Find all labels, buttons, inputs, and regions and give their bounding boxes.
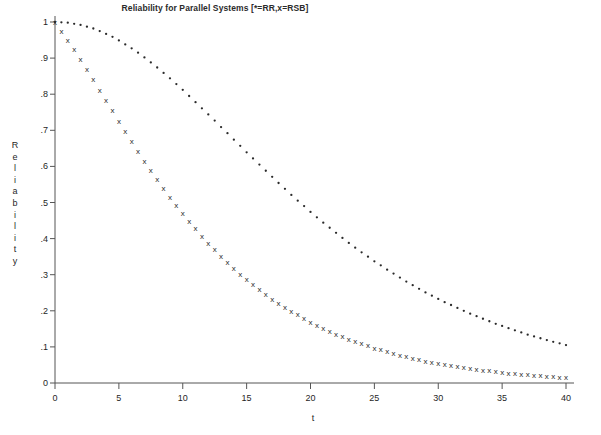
plot-canvas: xxxxxxxxxxxxxxxxxxxxxxxxxxxxxxxxxxxxxxxx… xyxy=(0,0,601,435)
data-point-marker: x xyxy=(494,367,498,376)
data-point-marker xyxy=(252,157,254,159)
data-point-marker xyxy=(354,246,356,248)
data-point-marker xyxy=(507,327,509,329)
y-axis-tick-label: .3 xyxy=(20,270,48,280)
data-point-marker xyxy=(297,200,299,202)
data-point-marker xyxy=(309,211,311,213)
chart-figure: Reliability for Parallel Systems [*=RR,x… xyxy=(0,0,601,435)
data-point-marker xyxy=(373,260,375,262)
data-point-marker xyxy=(316,216,318,218)
data-point-marker xyxy=(431,294,433,296)
data-point-marker: x xyxy=(200,232,204,241)
data-point-marker: x xyxy=(507,369,511,378)
data-point-marker xyxy=(290,194,292,196)
y-axis-tick-label: 0 xyxy=(20,378,48,388)
data-point-marker: x xyxy=(353,337,357,346)
data-point-marker: x xyxy=(430,358,434,367)
data-point-marker xyxy=(424,291,426,293)
data-point-marker: x xyxy=(321,324,325,333)
data-point-marker: x xyxy=(417,355,421,364)
data-point-marker: x xyxy=(110,106,114,115)
y-axis-tick-label: .7 xyxy=(20,125,48,135)
data-point-marker xyxy=(399,276,401,278)
data-point-marker: x xyxy=(340,332,344,341)
data-point-marker xyxy=(514,329,516,331)
data-point-marker xyxy=(284,188,286,190)
data-point-marker xyxy=(156,66,158,68)
x-axis-tick-label: 20 xyxy=(305,393,315,403)
data-point-marker xyxy=(443,301,445,303)
data-point-marker xyxy=(303,205,305,207)
data-point-marker: x xyxy=(206,239,210,248)
data-point-marker: x xyxy=(130,137,134,146)
data-point-marker xyxy=(245,151,247,153)
data-point-marker: x xyxy=(411,354,415,363)
data-point-marker xyxy=(418,288,420,290)
data-point-marker: x xyxy=(181,209,185,218)
x-axis-tick-label: 5 xyxy=(116,393,121,403)
data-point-marker xyxy=(99,30,101,32)
data-point-marker: x xyxy=(85,65,89,74)
data-point-marker: x xyxy=(302,314,306,323)
data-point-marker xyxy=(233,139,235,141)
data-point-marker: x xyxy=(347,335,351,344)
data-point-marker xyxy=(162,72,164,74)
data-point-marker: x xyxy=(500,368,504,377)
data-point-marker xyxy=(565,344,567,346)
data-point-marker: x xyxy=(162,184,166,193)
data-point-marker: x xyxy=(385,347,389,356)
data-point-marker xyxy=(495,323,497,325)
data-point-marker xyxy=(111,36,113,38)
data-point-marker: x xyxy=(277,299,281,308)
y-axis-tick-label: .8 xyxy=(20,89,48,99)
data-point-marker: x xyxy=(519,370,523,379)
data-point-marker xyxy=(380,264,382,266)
y-axis-tick-label: .5 xyxy=(20,198,48,208)
data-point-marker xyxy=(182,89,184,91)
data-point-marker: x xyxy=(462,363,466,372)
data-point-marker xyxy=(482,318,484,320)
data-point-marker: x xyxy=(545,372,549,381)
data-point-marker: x xyxy=(532,371,536,380)
data-point-marker: x xyxy=(372,344,376,353)
data-point-marker xyxy=(367,256,369,258)
data-point-marker xyxy=(456,307,458,309)
data-point-marker: x xyxy=(213,245,217,254)
data-point-marker: x xyxy=(296,310,300,319)
data-point-marker xyxy=(214,119,216,121)
data-point-marker xyxy=(469,313,471,315)
y-axis-tick-label: .1 xyxy=(20,342,48,352)
plot-area: xxxxxxxxxxxxxxxxxxxxxxxxxxxxxxxxxxxxxxxx… xyxy=(0,0,601,435)
data-point-marker: x xyxy=(79,55,83,64)
data-point-marker: x xyxy=(232,264,236,273)
data-point-marker: x xyxy=(66,36,70,45)
data-point-marker: x xyxy=(309,318,313,327)
y-axis-tick-label: .9 xyxy=(20,53,48,63)
data-point-marker: x xyxy=(443,360,447,369)
data-point-marker xyxy=(412,284,414,286)
data-point-marker: x xyxy=(225,258,229,267)
data-point-marker xyxy=(143,56,145,58)
data-point-marker: x xyxy=(187,217,191,226)
data-point-marker: x xyxy=(270,295,274,304)
data-point-marker: x xyxy=(366,341,370,350)
data-point-marker: x xyxy=(392,349,396,358)
data-point-marker xyxy=(329,227,331,229)
data-point-marker: x xyxy=(219,252,223,261)
data-point-marker xyxy=(175,83,177,85)
data-point-marker: x xyxy=(174,201,178,210)
data-point-marker xyxy=(265,170,267,172)
data-point-marker xyxy=(437,298,439,300)
data-point-marker: x xyxy=(257,285,261,294)
data-point-marker: x xyxy=(264,290,268,299)
data-point-marker xyxy=(60,21,62,23)
data-point-marker: x xyxy=(379,345,383,354)
data-point-marker xyxy=(239,145,241,147)
data-point-marker: x xyxy=(551,372,555,381)
data-point-marker xyxy=(131,47,133,49)
data-point-marker xyxy=(207,113,209,115)
data-point-marker xyxy=(552,341,554,343)
data-point-marker: x xyxy=(251,280,255,289)
data-point-marker: x xyxy=(526,370,530,379)
data-point-marker xyxy=(450,304,452,306)
